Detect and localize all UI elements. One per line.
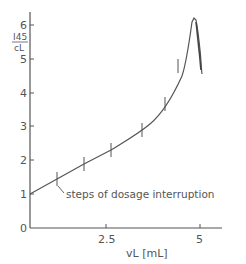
dosage-marks [57,59,178,186]
x-tick-2-5: 2.5 [98,233,116,246]
y-axis-label-denominator: cL [14,43,24,53]
data-curve [30,18,202,194]
y-tick-3: 3 [20,120,27,133]
y-tick-0: 0 [20,222,27,235]
y-tick-5: 5 [20,53,27,66]
chart: 0 1 2 3 4 5 6 I45 cL 2.5 5 vL [mL] steps… [0,0,246,264]
x-axis-label: vL [mL] [126,247,168,260]
annotation-leader [58,186,64,193]
data-curve-tail [196,22,201,70]
y-tick-6: 6 [20,19,27,32]
annotation-text: steps of dosage interruption [66,188,214,200]
y-tick-1: 1 [20,188,27,201]
y-tick-2: 2 [20,154,27,167]
y-axis-label-numerator: I45 [13,32,27,42]
y-tick-4: 4 [20,87,27,100]
x-tick-5: 5 [196,233,203,246]
